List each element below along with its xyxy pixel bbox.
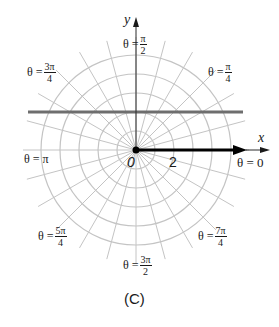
- angle-label-0: θ = 0: [237, 156, 264, 169]
- radial-tick-label: 2: [169, 155, 177, 169]
- angle-label-7pi-4: θ =7π4: [198, 226, 227, 248]
- x-axis-arrowhead-icon: [260, 147, 270, 153]
- angle-label-3pi-2: θ =3π2: [123, 255, 152, 277]
- y-axis-arrowhead-icon: [133, 17, 139, 27]
- origin-label: 0: [127, 155, 135, 169]
- vector-arrowhead-icon: [233, 145, 247, 155]
- angle-label-pi-2: θ =π2: [123, 34, 147, 56]
- x-axis-label: x: [258, 131, 264, 145]
- origin-point: [133, 147, 140, 154]
- figure-caption: (C): [124, 290, 145, 307]
- angle-label-3pi-4: θ =3π4: [27, 62, 56, 84]
- angle-label-pi-4: θ =π4: [208, 62, 232, 84]
- angle-label-5pi-4: θ =5π4: [38, 226, 67, 248]
- y-axis-label: y: [124, 13, 130, 27]
- angle-label-pi: θ = π: [24, 153, 49, 165]
